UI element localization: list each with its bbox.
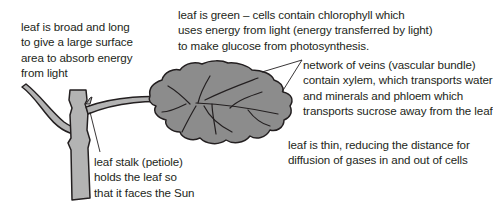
leaf-diagram: leaf is broad and long to give a large s…	[0, 0, 493, 209]
label-vein-network: network of veins (vascular bundle) conta…	[303, 57, 493, 118]
label-leaf-stalk: leaf stalk (petiole) holds the leaf so t…	[94, 154, 194, 200]
label-green-leaf: leaf is green – cells contain chlorophyl…	[178, 7, 433, 53]
label-thin-leaf: leaf is thin, reducing the distance for …	[288, 137, 470, 168]
label-broad-leaf: leaf is broad and long to give a large s…	[21, 19, 133, 80]
leaf-blade	[149, 61, 292, 144]
